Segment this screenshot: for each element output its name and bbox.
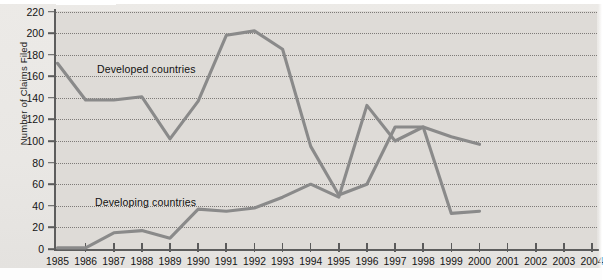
scan-right-edge [598, 0, 602, 268]
scan-top-notch [56, 0, 116, 5]
series-line-developed-countries [58, 31, 480, 214]
series-label-developing: Developing countries [95, 196, 196, 208]
series-label-developed: Developed countries [97, 63, 196, 75]
